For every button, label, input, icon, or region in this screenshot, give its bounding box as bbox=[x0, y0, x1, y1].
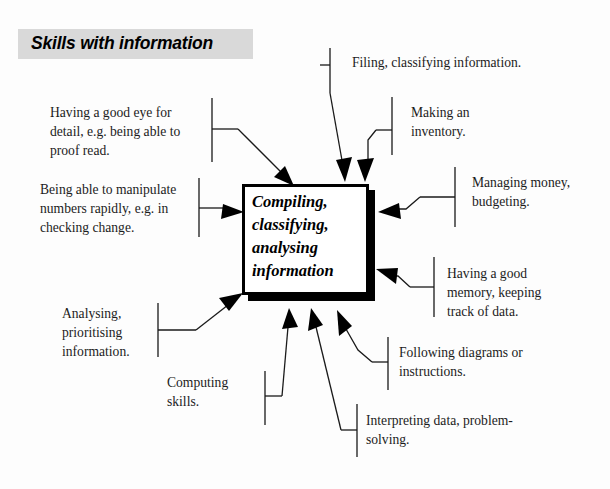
connector-memory bbox=[376, 257, 434, 317]
connector-money bbox=[378, 167, 455, 227]
label-computing: Computing skills. bbox=[167, 373, 277, 411]
label-diagrams: Following diagrams or instructions. bbox=[399, 343, 589, 381]
label-filing: Filing, classifying information. bbox=[352, 53, 572, 72]
label-detail: Having a good eye for detail, e.g. being… bbox=[50, 103, 225, 160]
label-memory: Having a good memory, keeping track of d… bbox=[447, 264, 577, 321]
label-inventory: Making an inventory. bbox=[411, 103, 541, 141]
connector-interpreting bbox=[308, 308, 357, 457]
label-money: Managing money, budgeting. bbox=[472, 173, 607, 211]
label-interpreting: Interpreting data, problem- solving. bbox=[366, 411, 581, 449]
center-box-label: Compiling, classifying, analysing inform… bbox=[252, 190, 364, 282]
connector-diagrams bbox=[337, 310, 388, 390]
label-numbers: Being able to manipulate numbers rapidly… bbox=[40, 180, 215, 237]
label-analysing: Analysing, prioritising information. bbox=[62, 304, 172, 361]
connector-inventory bbox=[357, 97, 392, 182]
connector-filing bbox=[320, 48, 352, 182]
diagram-page: Skills with information bbox=[0, 0, 610, 489]
